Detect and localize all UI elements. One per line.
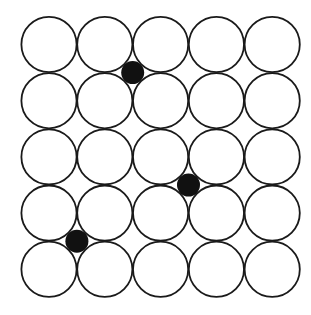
lattice-atom <box>133 129 188 184</box>
lattice-atom <box>189 242 244 297</box>
interstitial-atom <box>177 174 200 197</box>
lattice-atom <box>189 186 244 241</box>
lattice-atom <box>21 186 76 241</box>
lattice-atom <box>21 129 76 184</box>
lattice-atom <box>189 73 244 128</box>
lattice-atom <box>77 129 132 184</box>
lattice-atom <box>133 242 188 297</box>
lattice-atom <box>133 73 188 128</box>
interstitial-atom <box>121 61 144 84</box>
interstitial-atom <box>65 230 88 253</box>
lattice-atom <box>133 186 188 241</box>
lattice-atom <box>133 17 188 72</box>
lattice-atom <box>189 129 244 184</box>
lattice-atom <box>245 186 300 241</box>
lattice-atom <box>77 186 132 241</box>
lattice-diagram <box>0 0 311 315</box>
lattice-atom <box>21 242 76 297</box>
lattice-atom <box>245 242 300 297</box>
lattice-svg <box>0 0 311 315</box>
lattice-atom <box>245 17 300 72</box>
lattice-atom <box>77 73 132 128</box>
lattice-atom <box>245 73 300 128</box>
lattice-atom <box>21 17 76 72</box>
lattice-atom <box>189 17 244 72</box>
lattice-atom <box>21 73 76 128</box>
lattice-atom <box>77 242 132 297</box>
lattice-atom <box>245 129 300 184</box>
lattice-atom <box>77 17 132 72</box>
